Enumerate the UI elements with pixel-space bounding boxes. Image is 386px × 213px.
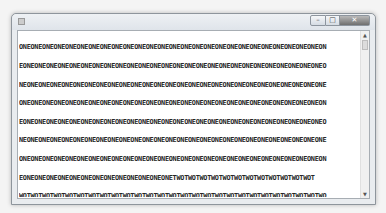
console-line: ONEONEONEONEONEONEONEONEONEONEONEONEONEO… [19,44,359,50]
console-line: NEONEONEONEONEONEONEONEONEONEONEONEONEON… [19,137,359,143]
scroll-up-arrow-icon[interactable]: ▲ [361,31,369,39]
console-line: NEONEONEONEONEONEONEONEONEONEONEONEONEON… [19,82,359,88]
console-window: – □ ✕ ONEONEONEONEONEONEONEONEONEONEONEO… [11,13,376,205]
maximize-icon: □ [329,16,336,24]
console-line: WOTWOTWOTWOTWOTWOTWOTWOTWOTWOTWOTWOTWOTW… [19,193,359,197]
console-line: EONEONEONEONEONEONEONEONEONEONEONEONEONE… [19,175,359,181]
console-line: EONEONEONEONEONEONEONEONEONEONEONEONEONE… [19,63,359,69]
window-controls: – □ ✕ [310,15,370,27]
console-client-area[interactable]: ONEONEONEONEONEONEONEONEONEONEONEONEONEO… [17,30,370,199]
console-line: ONEONEONEONEONEONEONEONEONEONEONEONEONEO… [19,156,359,162]
vertical-scrollbar[interactable]: ▲ ▼ [360,31,369,198]
console-output[interactable]: ONEONEONEONEONEONEONEONEONEONEONEONEONEO… [19,32,359,197]
console-line: EONEONEONEONEONEONEONEONEONEONEONEONEONE… [19,119,359,125]
scroll-down-arrow-icon[interactable]: ▼ [361,190,369,198]
title-bar[interactable]: – □ ✕ [12,14,375,30]
window-title [30,16,320,27]
scroll-thumb[interactable] [362,40,368,50]
minimize-button[interactable]: – [310,15,326,26]
maximize-button[interactable]: □ [326,15,340,26]
minimize-icon: – [316,16,320,24]
close-button[interactable]: ✕ [340,15,370,26]
console-line: ONEONEONEONEONEONEONEONEONEONEONEONEONEO… [19,100,359,106]
app-icon[interactable] [18,18,25,25]
close-icon: ✕ [352,16,358,24]
